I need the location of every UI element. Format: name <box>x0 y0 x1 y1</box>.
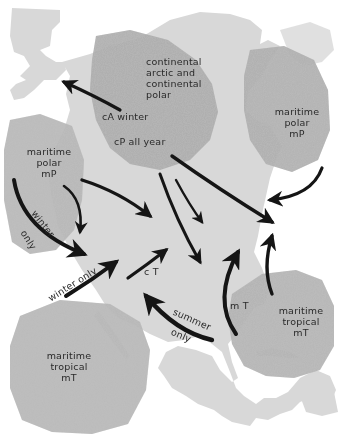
cP-all-year-label: cP all year <box>114 136 166 147</box>
pacific-mT-label: maritime tropical mT <box>34 350 104 383</box>
arrow-atlantic-mP-southwest <box>270 168 322 200</box>
gulf-mT-label: m T <box>230 300 249 311</box>
cT-label: c T <box>144 266 159 277</box>
cA-winter-label: cA winter <box>102 111 148 122</box>
atlantic-mT-label: maritime tropical mT <box>266 305 336 338</box>
alaska-land <box>10 8 66 100</box>
atlantic-mP-label: maritime polar mP <box>262 106 332 139</box>
cA-cP-region-label: continental arctic and continental polar <box>146 56 202 100</box>
pacific-mP-label: maritime polar mP <box>14 146 84 179</box>
